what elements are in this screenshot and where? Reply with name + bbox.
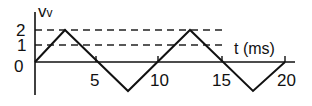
x-tick-20: 20 [277,72,296,89]
y-tick-1: 1 [17,37,26,54]
x-tick-5: 5 [90,72,99,89]
x-tick-15: 15 [212,72,231,89]
y-axis-label: vv [38,3,53,20]
x-tick-10: 10 [150,72,169,89]
y-tick-0: 0 [14,58,23,75]
x-axis-label: t (ms) [234,41,275,57]
